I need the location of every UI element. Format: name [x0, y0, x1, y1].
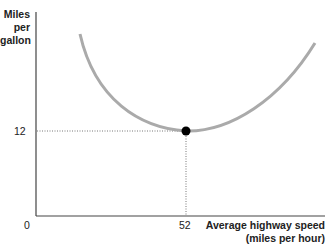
x-tick-52: 52 [179, 219, 191, 231]
x-label-line-2: (miles per hour) [206, 232, 325, 245]
x-tick-0: 0 [24, 219, 30, 231]
minimum-point [182, 127, 191, 136]
x-axis-label: Average highway speed (miles per hour) [206, 219, 325, 245]
y-axis-label: Miles per gallon [0, 8, 30, 47]
x-label-line-1: Average highway speed [206, 219, 325, 232]
y-label-line-1: Miles [0, 8, 30, 21]
mpg-curve [80, 34, 315, 131]
chart-plot [0, 0, 329, 248]
y-label-line-3: gallon [0, 34, 30, 47]
y-label-line-2: per [0, 21, 30, 34]
y-tick-12: 12 [14, 125, 26, 137]
